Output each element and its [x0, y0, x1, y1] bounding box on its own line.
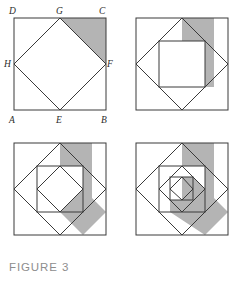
- vertex-label-D: D: [8, 6, 16, 16]
- vertex-label-A: A: [8, 115, 15, 125]
- panel-stage-4: [122, 129, 244, 258]
- vertex-label-F: F: [106, 59, 113, 69]
- panel-stage-1: D G C H F A E B: [0, 0, 122, 129]
- vertex-label-B: B: [101, 115, 107, 125]
- panel-grid: D G C H F A E B: [0, 0, 244, 258]
- vertex-label-G: G: [56, 6, 63, 16]
- shaded-region-4b: [170, 177, 228, 235]
- shaded-region-4c: [182, 177, 193, 200]
- figure-3: D G C H F A E B: [0, 0, 244, 281]
- vertex-label-E: E: [55, 115, 62, 125]
- figure-caption: FIGURE 3: [9, 261, 69, 273]
- inner-square-2: [159, 41, 205, 87]
- panel-stage-3: [0, 129, 122, 258]
- panel-stage-2: [122, 0, 244, 129]
- vertex-label-H: H: [3, 59, 12, 69]
- vertex-label-C: C: [99, 6, 106, 16]
